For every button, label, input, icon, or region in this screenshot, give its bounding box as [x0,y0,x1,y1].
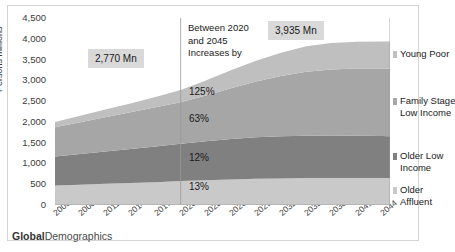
y-tick-label: 0 [0,200,46,209]
y-tick-label: 500 [0,179,46,188]
brand-footer: GlobalDemographics [12,230,112,242]
y-tick-label: 3,500 [0,55,46,64]
legend-label-older-low-income: Older LowIncome [400,150,443,173]
brand-bold: Global [12,230,45,242]
legend-label-line1: Family Stage [400,95,455,107]
legend-swatch-family-stage-low-income [393,98,397,105]
growth-label-older-affluent: 13% [189,181,209,192]
legend-label-line1: Older [400,184,432,196]
growth-label-young-poor: 125% [189,86,215,97]
y-tick-label: 2,000 [0,117,46,126]
legend-label-line1: Young Poor [400,48,449,60]
brand-rest: Demographics [45,230,113,242]
y-tick-label: 4,000 [0,34,46,43]
legend-label-family-stage-low-income: Family StageLow Income [400,95,455,118]
legend-label-line2: Affluent [400,196,432,208]
y-tick-label: 1,500 [0,138,46,147]
y-tick-label: 3,000 [0,75,46,84]
y-tick-label: 2,500 [0,96,46,105]
legend-label-young-poor: Young Poor [400,48,449,60]
legend-swatch-older-low-income [393,153,397,160]
legend-label-older-affluent: OlderAffluent [400,184,432,207]
growth-annotation: Between 2020 and 2045 Increases by [188,22,249,60]
legend-label-line2: Low Income [400,107,455,119]
legend-swatch-older-affluent [393,187,397,194]
growth-label-family-stage: 63% [189,113,209,124]
legend-swatch-young-poor [393,51,397,58]
growth-annotation-line1: Between 2020 [188,22,249,35]
callout-total-2045: 3,935 Mn [268,21,324,40]
y-tick-label: 1,000 [0,158,46,167]
growth-annotation-line2: and 2045 [188,35,249,48]
legend-label-line2: Income [400,162,443,174]
y-tick-label: 4,500 [0,13,46,22]
legend-label-line1: Older Low [400,150,443,162]
callout-total-2020: 2,770 Mn [88,49,144,68]
growth-annotation-line3: Increases by [188,47,249,60]
growth-label-older-low-income: 12% [189,152,209,163]
